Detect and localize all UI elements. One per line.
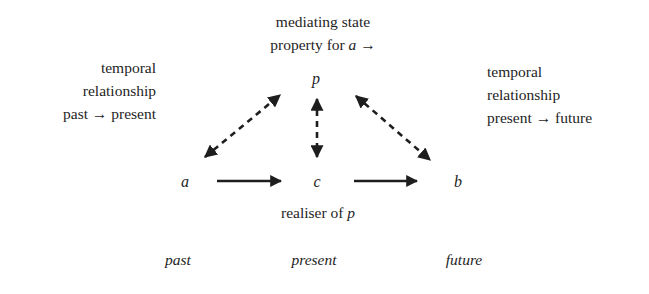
dashed-arrow-b-p — [356, 96, 430, 160]
node-a: a — [181, 173, 189, 191]
node-p: p — [312, 70, 320, 88]
node-b: b — [454, 173, 462, 191]
timeline-present: present — [291, 251, 336, 269]
node-c: c — [313, 173, 320, 191]
arrows-layer — [0, 0, 649, 294]
dashed-arrow-a-p — [205, 95, 280, 157]
timeline-future: future — [446, 251, 482, 269]
timeline-past: past — [165, 251, 191, 269]
realiser-of-p-label: realiser of p — [281, 201, 355, 224]
var-p: p — [347, 204, 355, 221]
